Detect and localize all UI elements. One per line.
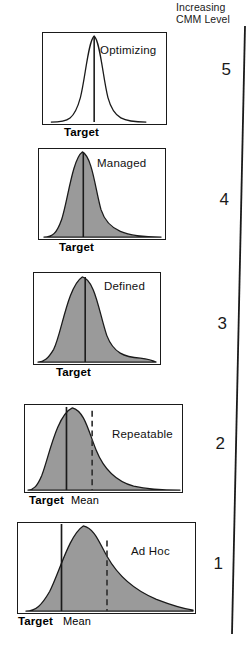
target-label-managed: Target [59, 241, 94, 253]
mean-label-ad-hoc: Mean [63, 615, 91, 627]
level-number-1: 1 [201, 554, 223, 574]
distribution-curve-ad-hoc [18, 523, 195, 613]
mean-label-repeatable: Mean [71, 494, 99, 506]
distribution-curve-repeatable [25, 405, 182, 492]
footer-repeatable: Target Mean [29, 494, 99, 506]
target-label-optimizing: Target [64, 126, 99, 138]
level-number-5: 5 [209, 60, 231, 80]
level-number-4: 4 [207, 190, 229, 210]
panel-label-ad-hoc: Ad Hoc [131, 545, 170, 557]
axis-title-line-2: CMM Level [176, 14, 252, 26]
axis-title: Increasing CMM Level [176, 2, 252, 25]
target-label-defined: Target [56, 366, 91, 378]
footer-ad-hoc: Target Mean [18, 615, 91, 627]
footer-optimizing: Target [64, 126, 99, 138]
panel-label-repeatable: Repeatable [112, 428, 173, 440]
panel-label-managed: Managed [97, 157, 146, 169]
footer-defined: Target [56, 366, 91, 378]
target-label-ad-hoc: Target [18, 615, 53, 627]
axis-title-line-1: Increasing [176, 2, 252, 14]
cmm-capability-diagram: Increasing CMM Level 5 4 3 2 1 Optimizin… [0, 0, 252, 649]
panel-label-defined: Defined [104, 280, 145, 292]
panel-ad-hoc [17, 522, 196, 614]
target-label-repeatable: Target [29, 494, 64, 506]
level-number-2: 2 [203, 434, 225, 454]
panel-repeatable [24, 404, 183, 493]
panel-label-optimizing: Optimizing [100, 44, 156, 56]
footer-managed: Target [59, 241, 94, 253]
level-number-3: 3 [205, 314, 227, 334]
